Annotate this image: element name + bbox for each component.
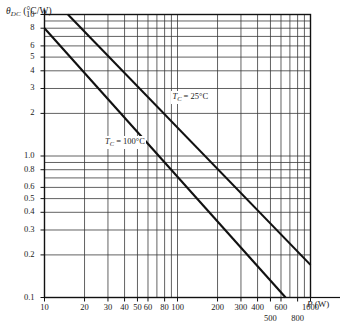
y-tick-label: 0.8 (7, 165, 35, 174)
y-tick-label: 1.0 (7, 151, 35, 160)
x-axis-title-symbol: P (307, 299, 313, 309)
x-tick-label: 10 (30, 303, 60, 312)
series-label-value: = 100°C (114, 136, 145, 146)
plot-svg (0, 0, 346, 330)
plot-frame (45, 10, 341, 298)
grid-lines (45, 15, 311, 298)
y-tick-label: 4 (7, 66, 35, 75)
series-label-0: TC = 25°C (171, 91, 209, 104)
x-axis-title-unit: (W) (315, 299, 330, 309)
axis-ticks (41, 15, 311, 302)
y-tick-label: 0.6 (7, 182, 35, 191)
series-label-1: TC = 100°C (104, 136, 146, 149)
y-tick-label: 0.2 (7, 250, 35, 259)
y-tick-label: 10 (7, 10, 35, 19)
y-tick-label: 0.3 (7, 225, 35, 234)
x-tick-label: 100 (163, 303, 193, 312)
x-tick-label: 600 (266, 303, 296, 312)
y-tick-label: 0.4 (7, 207, 35, 216)
chart-figure: θDC (°C/W) 108654321.00.80.60.50.40.30.2… (0, 0, 346, 330)
y-tick-label: 3 (7, 83, 35, 92)
y-tick-label: 6 (7, 41, 35, 50)
y-tick-label: 8 (7, 23, 35, 32)
y-tick-label: 5 (7, 52, 35, 61)
y-tick-label: 0.1 (7, 293, 35, 302)
x-tick-label: 800 (283, 314, 313, 323)
y-tick-label: 2 (7, 108, 35, 117)
y-tick-label: 0.5 (7, 194, 35, 203)
x-axis-title: P (W) (307, 299, 329, 309)
series-label-value: = 25°C (181, 91, 208, 101)
x-tick-label: 500 (255, 314, 285, 323)
